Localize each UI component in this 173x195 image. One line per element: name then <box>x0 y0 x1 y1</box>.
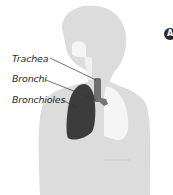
figure-badge: A <box>164 28 173 40</box>
trachea-label: Trachea <box>12 53 48 64</box>
nasal-airway <box>72 41 86 57</box>
bronchi-label: Bronchi <box>12 73 47 84</box>
trachea-shape <box>94 78 101 102</box>
bronchioles-label: Bronchioles <box>12 94 65 105</box>
